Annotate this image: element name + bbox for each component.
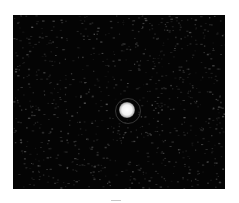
bright-spot (119, 102, 135, 118)
caption-mark (111, 200, 121, 201)
speckle-field (13, 15, 225, 189)
